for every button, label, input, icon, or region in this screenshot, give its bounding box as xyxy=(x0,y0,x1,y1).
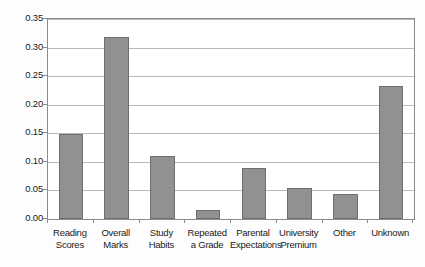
x-axis-category-label-line: Repeated xyxy=(184,227,230,239)
x-axis-category-label: StudyHabits xyxy=(139,227,185,250)
x-axis-category-label-line: a Grade xyxy=(184,239,230,251)
x-axis-ticks xyxy=(47,219,413,224)
x-axis-category-label: Repeateda Grade xyxy=(184,227,230,250)
x-axis-tick-mark xyxy=(184,219,185,223)
x-axis-category-label-line: Reading xyxy=(47,227,93,239)
x-axis-tick-mark xyxy=(230,219,231,223)
x-axis-category-label-line: Study xyxy=(139,227,185,239)
bar-chart: 0.000.050.100.150.200.250.300.35 Reading… xyxy=(0,0,425,267)
x-axis-tick-mark xyxy=(47,219,48,223)
x-axis-tick-mark xyxy=(139,219,140,223)
x-axis-category-label: ParentalExpectations xyxy=(230,227,276,250)
x-axis-category-label: Unknown xyxy=(367,227,413,239)
y-axis-tick-label: 0.00 xyxy=(3,213,43,223)
x-axis-labels: ReadingScoresOverallMarksStudyHabitsRepe… xyxy=(47,227,413,261)
bars-group xyxy=(48,19,414,219)
x-axis-category-label-line: Unknown xyxy=(367,227,413,239)
y-axis-tick-label: 0.10 xyxy=(3,156,43,166)
x-axis-category-label-line: University xyxy=(276,227,322,239)
x-axis-category-label: UniversityPremium xyxy=(276,227,322,250)
x-axis-tick-mark xyxy=(412,219,413,223)
y-axis-tick-label: 0.15 xyxy=(3,127,43,137)
y-axis-tick-label: 0.30 xyxy=(3,42,43,52)
x-axis-category-label-line: Parental xyxy=(230,227,276,239)
bar xyxy=(287,188,312,219)
x-axis-category-label: ReadingScores xyxy=(47,227,93,250)
x-axis-category-label: Other xyxy=(322,227,368,239)
x-axis-category-label-line: Expectations xyxy=(230,239,276,251)
x-axis-tick-mark xyxy=(322,219,323,223)
x-axis-tick-mark xyxy=(367,219,368,223)
y-axis: 0.000.050.100.150.200.250.300.35 xyxy=(0,18,43,218)
bar xyxy=(150,156,175,219)
x-axis-category-label-line: Other xyxy=(322,227,368,239)
x-axis-category-label-line: Habits xyxy=(139,239,185,251)
x-axis-category-label: OverallMarks xyxy=(93,227,139,250)
x-axis-tick-mark xyxy=(276,219,277,223)
y-axis-tick-label: 0.20 xyxy=(3,99,43,109)
x-axis-category-label-line: Scores xyxy=(47,239,93,251)
y-axis-tick-label: 0.35 xyxy=(3,13,43,23)
bar xyxy=(59,134,84,219)
bar xyxy=(104,37,129,219)
y-axis-tick-label: 0.05 xyxy=(3,184,43,194)
x-axis-tick-mark xyxy=(93,219,94,223)
x-axis-category-label-line: Overall xyxy=(93,227,139,239)
bar xyxy=(333,194,358,219)
x-axis-category-label-line: Premium xyxy=(276,239,322,251)
bar xyxy=(196,210,221,219)
plot-area xyxy=(47,18,415,220)
x-axis-category-label-line: Marks xyxy=(93,239,139,251)
y-axis-tick-label: 0.25 xyxy=(3,70,43,80)
bar xyxy=(379,86,404,219)
bar xyxy=(242,168,267,219)
